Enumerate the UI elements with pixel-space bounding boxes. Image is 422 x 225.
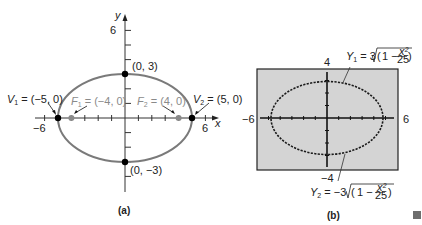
- svg-text:1 −: 1 −: [357, 186, 373, 198]
- svg-text:Y2 = −3: Y2 = −3: [310, 186, 346, 199]
- bottom-vertex-point: [122, 159, 128, 165]
- panel-a-caption: (a): [118, 205, 130, 216]
- ymax-label: 4: [324, 56, 330, 68]
- panel-b-caption: (b): [327, 210, 340, 221]
- y-axis-label: y: [114, 9, 122, 21]
- svg-text:1 −: 1 −: [382, 50, 398, 62]
- focus-f2-point: [176, 115, 182, 121]
- figure: y x 6 −6 6 (0, 3) (0, −3) V1 = (−5, 0) F…: [0, 0, 422, 225]
- vertex-v1-point: [55, 115, 61, 121]
- ymin-label: −4: [321, 172, 334, 184]
- end-marker-icon: [413, 211, 421, 219]
- svg-text:(: (: [351, 186, 355, 198]
- x-axis-label: x: [214, 117, 221, 129]
- vertex-v2-point: [189, 115, 195, 121]
- v1-label: V1 = (−5, 0): [7, 93, 63, 106]
- top-vertex-label: (0, 3): [132, 60, 158, 72]
- f1-label: F1 = (−4, 0): [71, 95, 126, 108]
- f2-label: F2 = (4, 0): [137, 95, 186, 108]
- svg-text:): ): [408, 50, 412, 62]
- svg-text:25: 25: [375, 189, 387, 201]
- xmax-label: 6: [403, 113, 409, 125]
- x-tick-6-label: 6: [202, 122, 208, 134]
- y-axis-arrow-icon: [123, 14, 128, 21]
- top-vertex-point: [122, 71, 128, 77]
- x-tick-neg6-label: −6: [33, 122, 46, 134]
- y1-equation: Y1 = 3 ( 1 − x² 25 ): [346, 45, 412, 65]
- xmin-label: −6: [242, 113, 255, 125]
- svg-text:(: (: [377, 50, 381, 62]
- focus-f1-point: [68, 115, 74, 121]
- y-tick-6-label: 6: [110, 24, 116, 36]
- panel-b: 4 −4 −6 6 Y1 = 3 ( 1 − x² 25 ) Y2 = −3 (…: [242, 45, 412, 221]
- y2-equation: Y2 = −3 ( 1 − x² 25 ): [310, 181, 394, 201]
- svg-text:Y1 = 3: Y1 = 3: [346, 50, 376, 63]
- bottom-vertex-label: (0, −3): [130, 164, 162, 176]
- svg-text:): ): [388, 186, 392, 198]
- v2-label: V2 = (5, 0): [193, 93, 242, 106]
- panel-a: y x 6 −6 6 (0, 3) (0, −3) V1 = (−5, 0) F…: [7, 9, 242, 216]
